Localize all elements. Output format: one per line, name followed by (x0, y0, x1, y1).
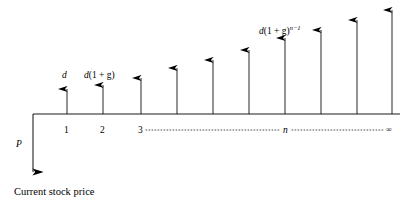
period-label-5: ∞ (386, 126, 392, 134)
cash-flow-label-d2: d(1 + g) (84, 71, 115, 81)
cash-flow-arrow-group (67, 10, 392, 114)
diagram-canvas (0, 0, 414, 203)
cash-flow-label-d1: d (62, 71, 67, 81)
period-label-4: n (283, 126, 288, 136)
cash-flow-diagram: dd(1 + g)d(1 + g)n−1 123n∞ P Current sto… (0, 0, 414, 203)
present-value-symbol: P (16, 140, 22, 150)
label-growth-term: (1 + g) (89, 70, 115, 80)
period-label-1: 1 (64, 126, 69, 136)
period-label-3: 3 (138, 126, 143, 136)
label-growth-term: (1 + g) (264, 26, 290, 36)
period-label-2: 2 (100, 126, 105, 136)
cash-flow-label-dn: d(1 + g)n−1 (259, 25, 301, 37)
current-stock-price-caption: Current stock price (14, 187, 94, 198)
label-base: d (62, 70, 67, 80)
label-exponent: n−1 (290, 24, 301, 31)
